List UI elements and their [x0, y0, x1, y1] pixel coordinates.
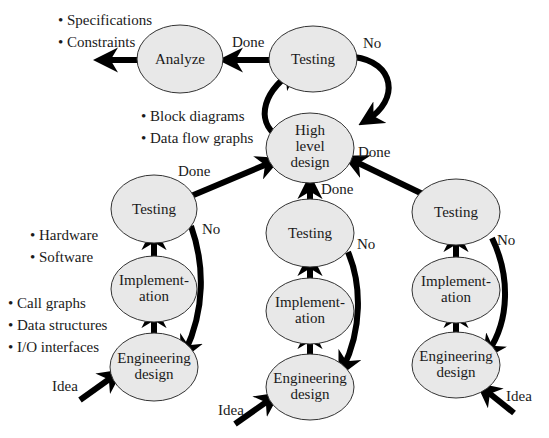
svg-text:• Data structures: • Data structures — [8, 317, 108, 333]
mid-done-label: Done — [321, 181, 354, 197]
top-no-arrow — [354, 57, 389, 120]
mid-impl-label-line1: Implement- — [275, 294, 345, 310]
annotation-analyze-outputs: • Specifications • Constraints — [58, 12, 152, 50]
right-no-label: No — [497, 232, 515, 248]
right-eng-label-line1: Engineering — [419, 348, 493, 364]
right-idea-label: Idea — [506, 388, 532, 404]
node-right-engineering-design: Engineering design — [412, 332, 500, 398]
analyze-label: Analyze — [155, 51, 205, 67]
svg-text:• Specifications: • Specifications — [58, 12, 152, 28]
svg-text:• Call graphs: • Call graphs — [8, 295, 86, 311]
node-mid-implementation: Implement- ation — [266, 278, 354, 344]
annotation-impl-outputs: • Hardware • Software — [30, 227, 98, 265]
mid-testing-label: Testing — [288, 225, 332, 241]
right-done-arrow — [352, 160, 431, 198]
left-impl-label-line1: Implement- — [119, 272, 189, 288]
node-left-testing: Testing — [111, 175, 197, 243]
right-impl-label-line1: Implement- — [421, 273, 491, 289]
mid-idea-label: Idea — [218, 402, 244, 418]
left-idea-label: Idea — [52, 378, 78, 394]
node-analyze: Analyze — [137, 25, 223, 93]
node-left-engineering-design: Engineering design — [110, 333, 198, 401]
svg-text:• Software: • Software — [30, 249, 93, 265]
left-eng-label-line1: Engineering — [117, 350, 191, 366]
annotation-hld-outputs: • Block diagrams • Data flow graphs — [141, 108, 253, 146]
mid-no-label: No — [357, 236, 375, 252]
left-done-label: Done — [178, 163, 211, 179]
node-mid-testing: Testing — [266, 199, 354, 267]
top-done-label: Done — [232, 34, 265, 50]
top-no-label: No — [363, 35, 381, 51]
svg-text:• I/O interfaces: • I/O interfaces — [8, 339, 99, 355]
design-flow-diagram: Analyze Testing High level design Testin… — [0, 0, 549, 438]
right-eng-label-line2: design — [436, 364, 476, 380]
node-high-level-design: High level design — [266, 113, 354, 183]
left-no-label: No — [202, 221, 220, 237]
node-right-implementation: Implement- ation — [412, 257, 500, 323]
hld-label-line2: level — [295, 138, 324, 154]
node-mid-engineering-design: Engineering design — [266, 354, 354, 420]
mid-eng-label-line1: Engineering — [273, 370, 347, 386]
hld-done-label: Done — [358, 144, 391, 160]
svg-text:• Block diagrams: • Block diagrams — [141, 108, 245, 124]
node-right-testing: Testing — [412, 179, 500, 245]
left-testing-label: Testing — [132, 201, 176, 217]
right-impl-label-line2: ation — [441, 289, 471, 305]
left-impl-label-line2: ation — [139, 288, 169, 304]
svg-text:• Hardware: • Hardware — [30, 227, 98, 243]
top-testing-label: Testing — [291, 51, 335, 67]
mid-eng-label-line2: design — [290, 386, 330, 402]
hld-label-line1: High — [295, 122, 326, 138]
node-left-implementation: Implement- ation — [111, 256, 197, 322]
annotation-eng-outputs: • Call graphs • Data structures • I/O in… — [8, 295, 108, 355]
right-testing-label: Testing — [434, 204, 478, 220]
svg-text:• Constraints: • Constraints — [58, 34, 135, 50]
hld-label-line3: design — [290, 154, 330, 170]
svg-text:• Data flow graphs: • Data flow graphs — [141, 130, 253, 146]
mid-impl-label-line2: ation — [295, 310, 325, 326]
left-idea-arrow — [80, 375, 115, 400]
left-eng-label-line2: design — [134, 366, 174, 382]
node-top-testing: Testing — [269, 26, 357, 92]
